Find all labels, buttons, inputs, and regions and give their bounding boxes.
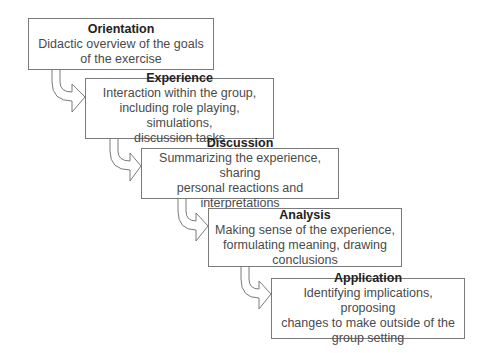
step-description: Making sense of the experience, formulat… — [213, 223, 397, 268]
step-discussion: Discussion Summarizing the experience, s… — [141, 148, 339, 199]
step-title: Application — [276, 271, 460, 286]
step-analysis: Analysis Making sense of the experience,… — [208, 208, 402, 267]
step-description: Didactic overview of the goals of the ex… — [33, 37, 209, 67]
step-title: Discussion — [146, 136, 334, 151]
step-experience: Experience Interaction within the group,… — [85, 78, 274, 139]
step-orientation: Orientation Didactic overview of the goa… — [28, 18, 214, 70]
step-description: Identifying implications, proposing chan… — [276, 286, 460, 346]
step-title: Orientation — [33, 22, 209, 37]
step-title: Experience — [90, 71, 269, 86]
arrow-icon — [52, 69, 85, 112]
step-description: Summarizing the experience, sharing pers… — [146, 151, 334, 211]
step-application: Application Identifying implications, pr… — [271, 278, 465, 339]
arrow-icon — [241, 266, 271, 309]
step-title: Analysis — [213, 208, 397, 223]
